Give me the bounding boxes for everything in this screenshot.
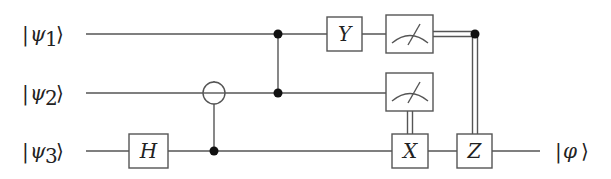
svg-text:ψ: ψ [30,81,46,105]
input-label-psi3: | ψ 3 ⟩ [22,139,64,168]
svg-text:H: H [139,139,158,163]
svg-text:|: | [22,81,29,106]
classical-wire-1 [433,30,480,135]
svg-text:|: | [22,22,29,47]
control-dot [274,89,283,98]
svg-text:⟩: ⟩ [56,22,64,46]
output-label-phi: | φ ⟩ [555,139,589,164]
svg-text:ψ: ψ [30,22,46,46]
classical-control-dot [471,30,480,39]
y-gate: Y [327,17,362,51]
control-dot [210,147,219,156]
quantum-circuit: | ψ 1 ⟩ | ψ 2 ⟩ | ψ 3 ⟩ H Y [0,0,611,179]
svg-text:|: | [555,139,562,164]
z-gate: Z [457,134,492,168]
classical-wire-2 [408,111,413,134]
svg-text:⟩: ⟩ [581,139,589,163]
svg-text:ψ: ψ [30,139,46,163]
x-gate: X [392,134,428,168]
measurement-meter-icon [386,15,433,53]
h-gate: H [129,134,168,168]
svg-text:φ: φ [563,139,577,163]
svg-text:Z: Z [467,139,483,163]
svg-text:|: | [22,139,29,164]
svg-text:X: X [401,139,418,163]
cnot-gate [203,81,225,156]
measurement-meter-icon [386,73,433,111]
svg-text:⟩: ⟩ [56,139,64,163]
cz-gate [274,30,283,98]
control-dot [274,30,283,39]
input-label-psi2: | ψ 2 ⟩ [22,81,64,110]
svg-text:Y: Y [338,22,353,46]
input-label-psi1: | ψ 1 ⟩ [22,22,64,51]
svg-text:⟩: ⟩ [56,81,64,105]
